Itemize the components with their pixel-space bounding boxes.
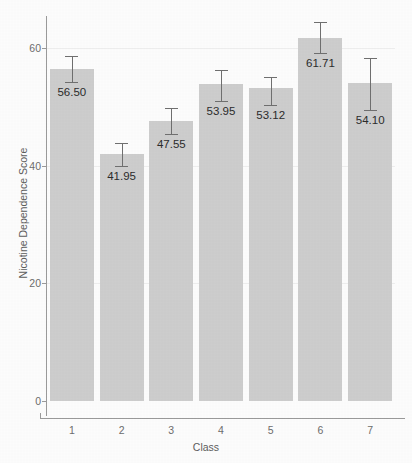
error-bar-cap-upper <box>115 143 128 144</box>
y-axis-tick-mark <box>42 166 47 167</box>
error-bar-stem <box>271 77 272 105</box>
error-bar-cap-lower <box>215 101 228 102</box>
y-axis-tick-label: 0 <box>0 395 41 407</box>
y-axis-tick-mark <box>42 48 47 49</box>
y-axis-tick-label: 60 <box>0 42 41 54</box>
error-bar-stem <box>171 108 172 134</box>
error-bar-cap-lower <box>115 166 128 167</box>
y-axis-tick-mark <box>42 401 47 402</box>
error-bar-stem <box>320 22 321 53</box>
bar-value-label: 61.71 <box>290 57 350 69</box>
x-axis-tick-label: 4 <box>201 424 241 436</box>
error-bar-cap-upper <box>264 77 277 78</box>
error-bar-cap-lower <box>314 53 327 54</box>
x-axis-title: Class <box>0 441 412 453</box>
bar-chart-figure: 56.5041.9547.5553.9553.1261.7154.10 0204… <box>0 0 412 463</box>
bar <box>348 83 392 401</box>
error-bar-cap-lower <box>65 82 78 83</box>
error-bar-cap-lower <box>364 110 377 111</box>
y-axis-tick-mark <box>42 283 47 284</box>
bar-value-label: 56.50 <box>42 86 102 98</box>
error-bar-stem <box>122 143 123 167</box>
error-bar-stem <box>72 56 73 81</box>
bar-value-label: 41.95 <box>92 170 152 182</box>
x-axis-tick-label: 7 <box>350 424 390 436</box>
bar <box>199 84 243 401</box>
bar <box>149 121 193 401</box>
error-bar-cap-upper <box>215 70 228 71</box>
error-bar-stem <box>221 70 222 101</box>
error-bar-cap-upper <box>165 108 178 109</box>
x-axis-tick-label: 1 <box>52 424 92 436</box>
error-bar-cap-upper <box>65 56 78 57</box>
x-axis-tick-label: 6 <box>300 424 340 436</box>
x-axis-tick-label: 2 <box>102 424 142 436</box>
x-axis-line <box>40 418 405 419</box>
x-axis-tick-label: 5 <box>251 424 291 436</box>
x-axis-left-cap <box>40 413 41 419</box>
bar-value-label: 53.12 <box>241 109 301 121</box>
bar <box>249 88 293 401</box>
error-bar-cap-lower <box>165 134 178 135</box>
bar-value-label: 54.10 <box>340 114 400 126</box>
error-bar-cap-upper <box>314 22 327 23</box>
error-bar-cap-lower <box>264 105 277 106</box>
gridline <box>47 48 395 49</box>
x-axis-tick-label: 3 <box>151 424 191 436</box>
error-bar-cap-upper <box>364 58 377 59</box>
y-axis-title: Nicotine Dependence Score <box>17 103 29 323</box>
bar <box>100 154 144 401</box>
plot-area: 56.5041.9547.5553.9553.1261.7154.10 <box>47 18 395 401</box>
bar <box>50 69 94 401</box>
bar-value-label: 47.55 <box>141 138 201 150</box>
error-bar-stem <box>370 58 371 110</box>
bar <box>298 38 342 401</box>
